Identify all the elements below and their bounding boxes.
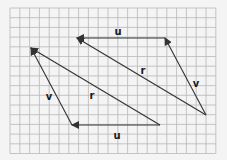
vector-label-v-left: v	[46, 91, 53, 102]
vector-label-u-top: u	[114, 26, 121, 37]
vector-label-r-top: r	[141, 65, 146, 76]
vector-diagram: urvrvu	[0, 0, 227, 160]
vector-arrow-v-left	[31, 48, 72, 125]
vector-arrow-v-right	[165, 38, 206, 115]
vectors-layer	[31, 38, 206, 125]
vector-label-v-right: v	[193, 78, 200, 89]
vector-label-r-bottom: r	[90, 90, 95, 101]
vector-label-u-bottom: u	[113, 130, 120, 141]
vector-arrow-r-bottom	[31, 48, 160, 125]
